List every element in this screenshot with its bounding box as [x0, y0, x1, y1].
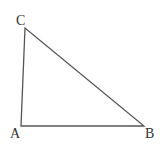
triangle-abc [21, 28, 144, 126]
triangle-diagram: C A B [0, 0, 163, 150]
vertex-label-b: B [145, 126, 154, 141]
vertex-label-a: A [10, 126, 21, 141]
vertex-label-c: C [16, 13, 25, 28]
